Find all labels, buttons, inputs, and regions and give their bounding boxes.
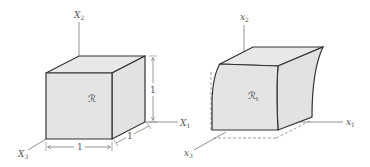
axis-X3 — [28, 139, 46, 150]
axis-x3 — [194, 132, 226, 150]
axis-X3-label: X3 — [17, 149, 28, 160]
width-dimension: 1 — [46, 142, 112, 152]
region-label-R: ℛ — [88, 93, 96, 104]
deformed-configuration: x2 x1 x3 ℛt — [184, 12, 355, 159]
continuum-deformation-figure: X2 X1 X3 ℛ 1 1 — [0, 0, 370, 167]
axis-X2-label: X2 — [73, 10, 84, 21]
reference-configuration: X2 X1 X3 ℛ 1 1 — [17, 10, 190, 160]
cube-front-face — [46, 73, 112, 139]
width-value: 1 — [77, 142, 83, 152]
axis-x3-label: x3 — [184, 148, 193, 159]
axis-X1-label: X1 — [179, 118, 190, 129]
deformed-front-face — [212, 64, 278, 130]
depth-value: 1 — [127, 131, 133, 141]
height-value: 1 — [150, 85, 156, 95]
axis-x2-label: x2 — [240, 12, 249, 23]
height-dimension: 1 — [149, 56, 157, 122]
axis-x1-label: x1 — [346, 117, 355, 128]
